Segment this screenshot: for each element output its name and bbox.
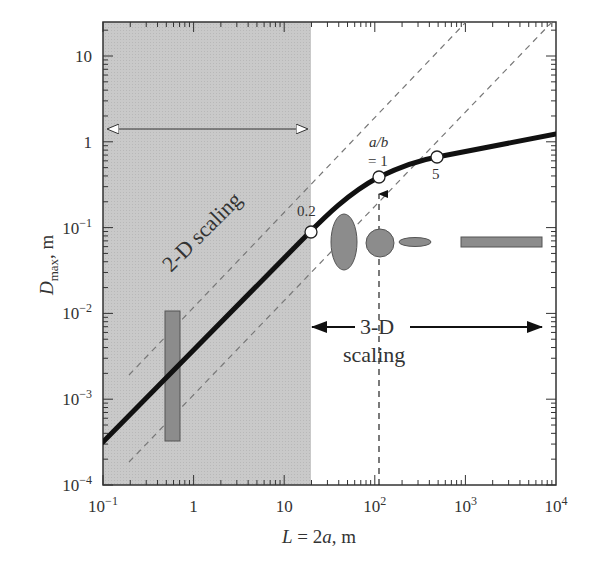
chart-canvas: 0.2 a/b = 1 5 2-D scaling 3-D scaling 10… <box>0 0 603 571</box>
x-axis-title: L = 2a, m <box>281 526 356 547</box>
marker-ab-1 <box>373 171 385 183</box>
three-d-label: 3-D <box>360 314 394 339</box>
x-axis-tick-labels: 10−1110102103104 <box>88 494 567 516</box>
circle-glyph <box>366 229 394 257</box>
flat-ellipse-glyph <box>399 238 431 247</box>
label-0.2: 0.2 <box>297 203 316 219</box>
y-tick-label: 10−2 <box>62 301 92 323</box>
two-d-region-shade <box>103 22 311 485</box>
horizontal-data-bar <box>461 237 542 247</box>
y-tick-label: 1 <box>84 133 93 152</box>
marker-ab-5 <box>431 151 443 163</box>
x-tick-label: 102 <box>363 494 386 516</box>
label-ab: a/b <box>369 134 389 150</box>
y-axis-tick-labels: 10−410−310−210−1110 <box>62 47 92 495</box>
label-5: 5 <box>432 166 440 182</box>
y-tick-label: 10−4 <box>62 473 92 495</box>
tall-ellipse-glyph <box>331 214 357 270</box>
y-tick-label: 10 <box>75 47 92 66</box>
y-tick-label: 10−3 <box>62 387 92 409</box>
x-tick-label: 1 <box>189 497 198 516</box>
y-axis-title: Dmax, m <box>36 234 61 296</box>
marker-ab-0.2 <box>305 226 317 238</box>
x-tick-label: 103 <box>454 494 477 516</box>
x-tick-label: 10 <box>276 497 293 516</box>
y-tick-label: 10−1 <box>62 216 92 238</box>
x-tick-label: 10−1 <box>88 494 118 516</box>
three-d-scaling-label: scaling <box>343 342 405 367</box>
x-tick-label: 104 <box>545 494 568 516</box>
label-eq-1: = 1 <box>368 153 388 169</box>
